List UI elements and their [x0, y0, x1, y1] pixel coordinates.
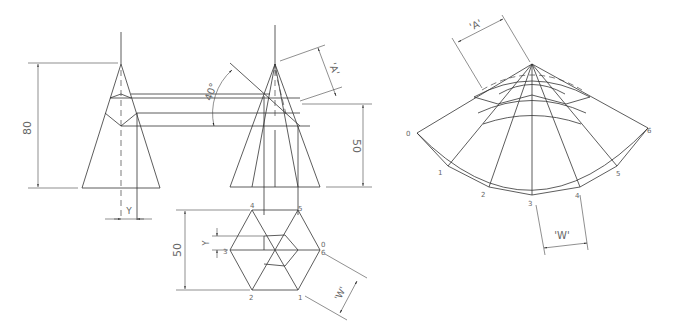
hex-label-4: 4 [250, 202, 255, 210]
dev-label-5: 5 [616, 170, 620, 178]
dimension-a-development: 'A' [452, 15, 530, 88]
dimension-a-elevation: 'A' [280, 45, 342, 101]
dimension-y-left: Y [105, 206, 152, 219]
dev-label-6: 6 [647, 127, 652, 135]
dimension-80-label: 80 [21, 121, 34, 135]
elevation-cone-right [230, 25, 320, 215]
w-label-plan: 'W' [333, 285, 348, 302]
hex-label-2: 2 [249, 294, 253, 302]
hex-label-3: 3 [223, 248, 227, 256]
dimension-y-label: Y [125, 206, 132, 216]
hex-label-5: 5 [298, 205, 302, 213]
dimension-w-development: 'W' [536, 195, 588, 255]
dimension-w-plan: 'W' [305, 254, 367, 320]
a-label-elevation: 'A' [327, 61, 342, 76]
hex-label-1: 1 [298, 294, 302, 302]
dimension-y-plan: Y [202, 228, 264, 258]
dev-label-3: 3 [528, 200, 532, 208]
surface-development: 0 1 2 3 4 5 6 [406, 64, 652, 208]
dev-label-0: 0 [406, 130, 410, 138]
technical-drawing: 80 Y 40° 'A' 50 [0, 0, 676, 329]
hexagon-plan: 4 5 3 0 6 2 1 [223, 202, 326, 302]
dev-label-1: 1 [438, 169, 442, 177]
dev-label-4: 4 [575, 192, 580, 200]
hex-label-6: 6 [321, 249, 326, 257]
elevation-cone-left [82, 32, 310, 220]
dev-label-2: 2 [481, 191, 485, 199]
dimension-50-label-elevation: 50 [350, 139, 363, 153]
w-label-development: 'W' [554, 230, 569, 241]
y-label-plan: Y [202, 240, 211, 246]
hex-label-0: 0 [321, 241, 325, 249]
angle-label: 40° [203, 82, 219, 102]
dimension-50-elevation: 50 [302, 104, 372, 187]
dimension-50-label-plan: 50 [171, 243, 184, 257]
dimension-80: 80 [21, 63, 118, 188]
